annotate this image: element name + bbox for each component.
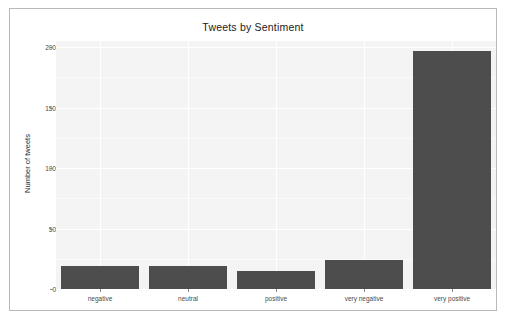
x-tick-mark bbox=[364, 289, 365, 292]
y-tick-mark bbox=[50, 229, 53, 230]
bar-very-positive bbox=[413, 51, 490, 289]
y-tick-mark bbox=[50, 47, 53, 48]
x-tick-mark bbox=[452, 289, 453, 292]
gridline-vertical bbox=[364, 41, 365, 289]
bar-neutral bbox=[149, 266, 226, 289]
bar-negative bbox=[61, 266, 138, 289]
gridline-vertical bbox=[188, 41, 189, 289]
x-tick-mark bbox=[276, 289, 277, 292]
gridline-vertical bbox=[276, 41, 277, 289]
bar-very-negative bbox=[325, 260, 402, 289]
x-tick-mark bbox=[188, 289, 189, 292]
y-tick-mark bbox=[50, 108, 53, 109]
x-tick-label-very-positive: very positive bbox=[434, 295, 470, 302]
x-tick-label-neutral: neutral bbox=[178, 295, 198, 302]
chart-title: Tweets by Sentiment bbox=[10, 21, 496, 33]
x-tick-label-positive: positive bbox=[265, 295, 287, 302]
y-tick-mark bbox=[50, 168, 53, 169]
x-tick-label-negative: negative bbox=[88, 295, 113, 302]
chart-figure: Tweets by Sentiment Number of tweets 050… bbox=[0, 0, 508, 320]
x-axis: negativeneutralpositivevery negativevery… bbox=[56, 289, 496, 315]
y-tick-mark bbox=[50, 289, 53, 290]
x-tick-mark bbox=[100, 289, 101, 292]
gridline-vertical bbox=[100, 41, 101, 289]
bar-positive bbox=[237, 271, 314, 289]
y-axis: 050100150200 bbox=[20, 41, 56, 289]
plot-frame: Tweets by Sentiment Number of tweets 050… bbox=[9, 8, 497, 311]
x-tick-label-very-negative: very negative bbox=[345, 295, 384, 302]
plot-panel bbox=[56, 41, 496, 289]
